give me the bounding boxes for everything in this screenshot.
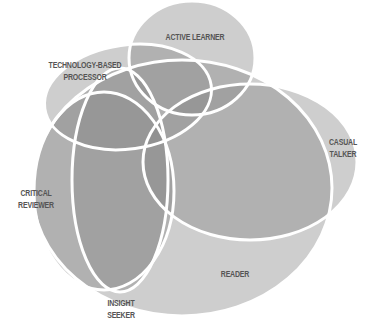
label-casual-talker: CASUAL TALKER [323, 136, 364, 160]
label-critical-reviewer: CRITICAL REVIEWER [14, 187, 58, 211]
venn-diagram [0, 0, 377, 334]
label-insight-seeker: INSIGHT SEEKER [101, 297, 142, 321]
label-reader: READER [215, 268, 256, 280]
label-technology-based-processor: TECHNOLOGY-BASED PROCESSOR [40, 59, 130, 83]
label-active-learner: ACTIVE LEARNER [150, 31, 240, 43]
venn-sets [32, 1, 357, 316]
